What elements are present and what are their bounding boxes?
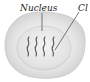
nucleus [17, 26, 71, 70]
nucleus-label: Nucleus [20, 3, 57, 13]
chromosome-label: Cl [78, 3, 88, 13]
cell-diagram: Nucleus Cl [0, 0, 90, 82]
